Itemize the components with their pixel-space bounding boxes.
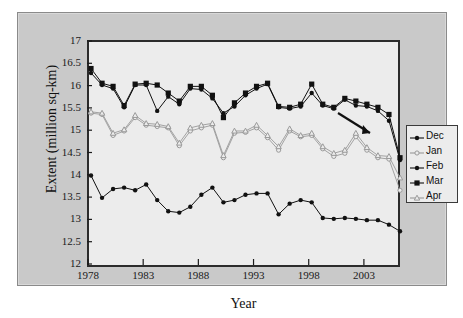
legend-label: Mar	[426, 175, 443, 186]
legend-marker-filled-square-icon	[409, 175, 425, 187]
legend-marker-open-triangle-icon	[409, 190, 425, 202]
legend-item-dec[interactable]: Dec	[407, 128, 457, 143]
legend-item-mar[interactable]: Mar	[407, 173, 457, 188]
legend-marker-filled-circle-icon	[409, 160, 425, 172]
x-axis-label: Year	[87, 296, 400, 312]
annotation-arrow	[18, 13, 446, 285]
legend-label: Feb	[426, 160, 443, 171]
legend-item-apr[interactable]: Apr	[407, 188, 457, 203]
legend[interactable]: DecJanFebMarApr	[406, 125, 458, 203]
figure-panel: 1716.51615.51514.51413.51312.512 1978198…	[17, 12, 447, 286]
legend-marker-filled-circle-icon	[409, 130, 425, 142]
legend-item-feb[interactable]: Feb	[407, 158, 457, 173]
legend-label: Dec	[426, 130, 444, 141]
figure-root: 1716.51615.51514.51413.51312.512 1978198…	[0, 0, 463, 318]
legend-item-jan[interactable]: Jan	[407, 143, 457, 158]
legend-marker-open-circle-icon	[409, 145, 425, 157]
legend-label: Apr	[426, 190, 442, 201]
legend-label: Jan	[426, 145, 442, 156]
